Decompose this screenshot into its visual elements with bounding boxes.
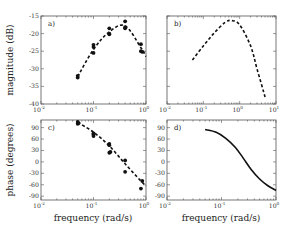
x-tick-label: 100 [139, 201, 150, 209]
y-tick-label: -90 [29, 192, 39, 199]
y-tick-label: 60 [31, 135, 39, 142]
axes-frame [41, 16, 146, 104]
panel-label: a) [48, 20, 55, 28]
solid-curve [205, 130, 276, 191]
y-tick-label: -30 [155, 169, 165, 176]
x-tick-label: 100 [139, 105, 150, 113]
y-tick-label: -20 [29, 30, 39, 37]
y-tick-label: -60 [155, 181, 165, 188]
x-tick-label: 100 [269, 201, 280, 209]
y-tick-label: 0 [161, 158, 165, 165]
panel-c-phase-measured: 10-210-11009060300-30-60-90c) [29, 120, 150, 209]
y-tick-label: 0 [35, 158, 39, 165]
y-axis-label-magnitude: magnitude (dB) [5, 24, 15, 95]
x-tick-label: 10-1 [195, 105, 207, 113]
y-tick-label: -40 [29, 100, 39, 107]
x-tick-label: 10-1 [214, 201, 226, 209]
figure: 10-210-1100-15-20-25-30-35-40a) 10-210-1… [0, 0, 290, 235]
data-point [139, 187, 143, 191]
data-point [92, 133, 96, 137]
x-tick-label: 10-2 [159, 105, 171, 113]
y-tick-label: -35 [29, 82, 39, 89]
y-tick-label: -90 [155, 192, 165, 199]
data-point [123, 19, 127, 23]
panel-label: c) [48, 124, 55, 132]
data-point [109, 150, 113, 154]
y-tick-label: 90 [157, 124, 165, 131]
data-point [107, 26, 111, 30]
x-tick-label: 10-1 [86, 105, 98, 113]
y-tick-label: 90 [31, 124, 39, 131]
data-point [123, 158, 127, 162]
dashed-curve [192, 20, 265, 97]
x-tick-label: 10-1 [86, 201, 98, 209]
dashed-curve [78, 25, 146, 76]
y-tick-label: -60 [29, 181, 39, 188]
x-tick-label: 100 [232, 105, 243, 113]
x-tick-label: 101 [269, 105, 280, 113]
y-tick-label: -25 [29, 47, 39, 54]
data-point [123, 170, 127, 174]
y-tick-label: -15 [29, 12, 39, 19]
y-tick-label: 30 [31, 146, 39, 153]
panel-a-magnitude-measured: 10-210-1100-15-20-25-30-35-40a) [29, 12, 150, 113]
dashed-curve [78, 122, 146, 186]
y-tick-label: 30 [157, 146, 165, 153]
y-tick-label: 60 [157, 135, 165, 142]
x-axis-label-d: frequency (rad/s) [182, 213, 261, 223]
y-tick-label: -30 [29, 169, 39, 176]
y-tick-label: -30 [29, 65, 39, 72]
panel-label: d) [174, 124, 181, 132]
y-axis-label-phase: phase (degrees) [5, 123, 15, 196]
x-tick-label: 10-2 [33, 201, 45, 209]
panel-label: b) [174, 20, 181, 28]
x-tick-label: 10-2 [159, 201, 171, 209]
x-axis-label-c: frequency (rad/s) [54, 213, 133, 223]
panel-d-phase-model: 10-210-11009060300-30-60-90d) [155, 120, 280, 209]
panel-b-magnitude-model: 10-210-1100101b) [159, 16, 280, 113]
axes-frame [167, 120, 276, 200]
axes-frame [167, 16, 276, 104]
